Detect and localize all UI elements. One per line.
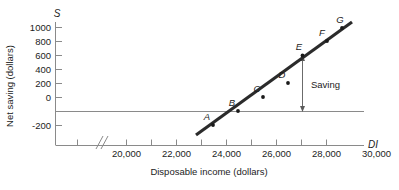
- data-point-label-A: A: [203, 111, 210, 122]
- data-point-label-D: D: [279, 69, 286, 80]
- data-point-E: [301, 54, 305, 58]
- y-tick-label-neg200: -200: [32, 120, 51, 131]
- x-axis-break-mark: [96, 136, 108, 149]
- data-point-label-G: G: [336, 14, 343, 25]
- chart-canvas: 1000 800 600 400 200 0 -200 S Net saving…: [0, 0, 399, 190]
- data-point-label-C: C: [254, 83, 261, 94]
- y-tick-label-600: 600: [35, 50, 51, 61]
- y-tick-label-0: 0: [46, 92, 51, 103]
- data-point-F: [325, 39, 329, 43]
- x-axis-ticks: [78, 140, 327, 146]
- data-point-A: [211, 123, 215, 127]
- x-tick-label-28000: 28,000: [312, 148, 341, 159]
- y-axis-ticks: [56, 28, 63, 126]
- x-axis-title: Disposable income (dollars): [150, 166, 267, 177]
- x-tick-label-22000: 22,000: [162, 148, 191, 159]
- x-tick-label-20000: 20,000: [112, 148, 141, 159]
- data-point-label-E: E: [296, 41, 303, 52]
- saving-schedule-chart: 1000 800 600 400 200 0 -200 S Net saving…: [0, 0, 399, 190]
- y-tick-label-1000: 1000: [30, 22, 51, 33]
- data-point-B: [236, 109, 240, 113]
- saving-annotation-label: Saving: [311, 79, 340, 90]
- y-axis-title: Net saving (dollars): [4, 45, 15, 127]
- y-tick-label-800: 800: [35, 36, 51, 47]
- data-point-C: [261, 95, 265, 99]
- y-tick-label-400: 400: [35, 64, 51, 75]
- x-tick-label-26000: 26,000: [262, 148, 291, 159]
- y-axis-symbol: S: [54, 8, 61, 19]
- y-tick-label-200: 200: [35, 78, 51, 89]
- data-point-label-B: B: [229, 97, 236, 108]
- x-tick-label-24000: 24,000: [212, 148, 241, 159]
- saving-annotation-arrow: [300, 55, 305, 112]
- x-axis-symbol: DI: [368, 139, 378, 150]
- data-point-label-F: F: [319, 27, 326, 38]
- data-point-D: [286, 81, 290, 85]
- data-point-G: [340, 26, 344, 30]
